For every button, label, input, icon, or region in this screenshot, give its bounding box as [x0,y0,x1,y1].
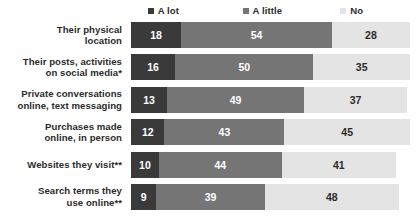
legend-swatch-icon [340,8,346,14]
legend-label: No [350,5,363,16]
row-bar: 124345 [131,119,410,145]
row-category-label-line: Their posts, activities [23,56,122,68]
chart-legend: A lotA littleNo [131,3,410,18]
chart-row: Purchases madeonline, in person124345 [0,119,418,145]
bar-segment-a-lot[interactable]: 13 [131,87,167,113]
row-bar: 134937 [131,87,410,113]
legend-swatch-icon [148,8,154,14]
chart-row: Private conversationsonline, text messag… [0,87,418,113]
row-category-label-line: online, text messaging [17,100,122,112]
bar-segment-a-little[interactable]: 50 [175,54,313,80]
bar-segment-no[interactable]: 28 [332,22,410,48]
row-bar: 165035 [131,54,410,80]
chart-rows: Their physicallocation185428Their posts,… [0,22,418,216]
bar-segment-a-lot[interactable]: 12 [131,119,164,145]
row-category-label-line: location [85,35,122,47]
legend-item-no[interactable]: No [340,3,363,18]
row-category-label: Purchases madeonline, in person [0,119,126,145]
chart-row: Their physicallocation185428 [0,22,418,48]
legend-label: A lot [158,5,179,16]
bar-segment-no[interactable]: 35 [313,54,410,80]
bar-segment-a-little[interactable]: 44 [159,152,282,178]
row-category-label-line: Search terms they [38,185,122,197]
row-category-label: Their physicallocation [0,22,126,48]
bar-segment-no[interactable]: 37 [304,87,407,113]
bar-segment-a-lot[interactable]: 10 [131,152,159,178]
bar-segment-a-lot[interactable]: 16 [131,54,175,80]
bar-segment-no[interactable]: 48 [265,184,399,210]
row-category-label: Their posts, activitieson social media* [0,54,126,80]
row-bar: 93948 [131,184,410,210]
row-category-label-line: on social media* [45,67,122,79]
row-bar: 104441 [131,152,410,178]
row-bar: 185428 [131,22,410,48]
row-category-label-line: Private conversations [21,88,122,100]
row-category-label-line: Purchases made [45,121,122,133]
row-category-label: Websites they visit** [0,152,126,178]
bar-segment-a-little[interactable]: 39 [156,184,265,210]
row-category-label: Private conversationsonline, text messag… [0,87,126,113]
row-category-label-line: Websites they visit** [27,159,122,171]
legend-item-a-lot[interactable]: A lot [148,3,179,18]
legend-swatch-icon [243,8,249,14]
bar-segment-a-little[interactable]: 49 [167,87,304,113]
bar-segment-a-lot[interactable]: 9 [131,184,156,210]
row-category-label-line: use online** [66,197,122,209]
chart-row: Websites they visit**104441 [0,152,418,178]
bar-segment-a-little[interactable]: 54 [181,22,332,48]
chart-row: Their posts, activitieson social media*1… [0,54,418,80]
bar-segment-a-lot[interactable]: 18 [131,22,181,48]
legend-item-a-little[interactable]: A little [243,3,282,18]
row-category-label-line: online, in person [44,132,122,144]
legend-label: A little [253,5,282,16]
bar-segment-a-little[interactable]: 43 [164,119,284,145]
bar-segment-no[interactable]: 41 [282,152,396,178]
row-category-label-line: Their physical [57,24,122,36]
bar-segment-no[interactable]: 45 [284,119,410,145]
chart-row: Search terms theyuse online**93948 [0,184,418,210]
stacked-bar-chart: A lotA littleNo Their physicallocation18… [0,0,418,218]
row-category-label: Search terms theyuse online** [0,184,126,210]
